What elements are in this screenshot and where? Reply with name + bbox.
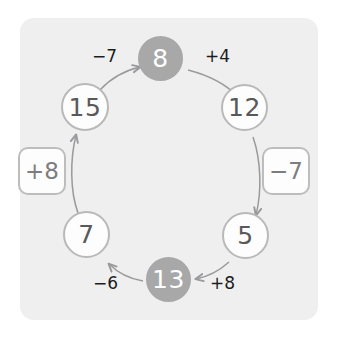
arrow-12-to-5 — [253, 137, 260, 215]
node-15-label: 15 — [69, 95, 102, 120]
node-5[interactable]: 5 — [222, 212, 269, 259]
op-label-minus-7-top: −7 — [92, 48, 117, 65]
node-13[interactable]: 13 — [146, 257, 191, 302]
screenshot-root: 8 12 5 13 7 15 +4 +8 −6 −7 −7 +8 — [0, 0, 337, 342]
arrow-7-to-15 — [72, 135, 78, 213]
node-12-label: 12 — [228, 95, 261, 120]
arrow-15-to-8 — [100, 67, 140, 90]
op-box-plus-8-left-label: +8 — [25, 160, 59, 183]
op-label-plus-4: +4 — [205, 48, 230, 65]
op-box-minus-7-right-label: −7 — [269, 160, 303, 183]
node-5-label: 5 — [237, 223, 253, 248]
node-15[interactable]: 15 — [61, 83, 109, 131]
node-13-label: 13 — [152, 267, 185, 292]
node-8-label: 8 — [152, 46, 168, 71]
node-7[interactable]: 7 — [63, 211, 110, 258]
node-12[interactable]: 12 — [221, 84, 268, 131]
op-label-plus-8-bottom: +8 — [210, 275, 235, 292]
op-box-minus-7-right[interactable]: −7 — [262, 147, 310, 195]
node-8[interactable]: 8 — [138, 36, 183, 81]
node-7-label: 7 — [78, 222, 94, 247]
op-box-plus-8-left[interactable]: +8 — [18, 147, 66, 195]
op-label-minus-6: −6 — [93, 275, 118, 292]
